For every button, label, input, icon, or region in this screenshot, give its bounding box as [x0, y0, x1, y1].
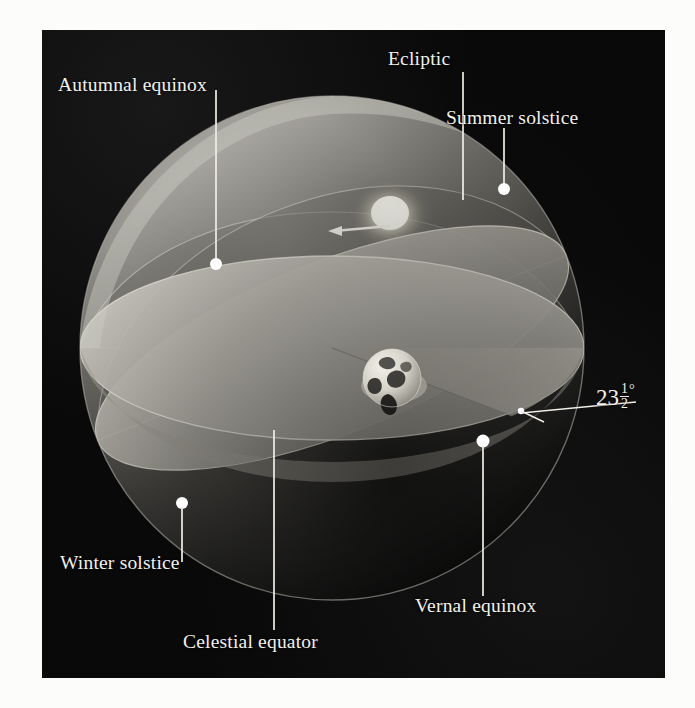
label-celestial-equator: Celestial equator: [183, 631, 318, 653]
diagram-panel: Ecliptic Summer solstice Autumnal equino…: [42, 30, 665, 678]
tilt-angle-whole: 23: [596, 385, 619, 410]
degree-symbol: °: [629, 381, 635, 397]
summer-solstice-marker[interactable]: [498, 183, 510, 195]
label-summer-solstice: Summer solstice: [446, 107, 578, 129]
figure-page: Ecliptic Summer solstice Autumnal equino…: [0, 0, 695, 708]
tilt-angle-denominator: 2: [620, 397, 629, 411]
tilt-angle-numerator: 1: [620, 382, 629, 397]
tilt-angle-fraction: 12: [620, 382, 629, 411]
label-ecliptic: Ecliptic: [388, 48, 450, 70]
label-autumnal-equinox: Autumnal equinox: [58, 74, 207, 96]
label-tilt-angle: 2312°: [596, 381, 635, 411]
label-winter-solstice: Winter solstice: [60, 552, 180, 574]
label-vernal-equinox: Vernal equinox: [415, 595, 536, 617]
autumnal-equinox-marker[interactable]: [210, 258, 222, 270]
